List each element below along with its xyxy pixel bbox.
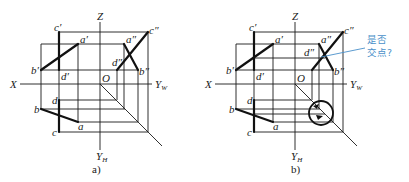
z-label: Z: [97, 10, 104, 22]
caption-b: b): [291, 163, 301, 176]
yw-label: YW: [155, 78, 168, 92]
label-c-front: c′: [54, 21, 62, 33]
x-label: X: [9, 78, 18, 90]
diagonal-45-line: [295, 84, 357, 146]
label-c-side: c″: [344, 24, 354, 36]
label-a-side: a″: [321, 33, 332, 45]
origin-label: O: [102, 72, 110, 84]
label-d-top: d: [52, 94, 58, 106]
label-d-front: d′: [256, 70, 265, 82]
label-a-front: a′: [275, 33, 284, 45]
z-label: Z: [292, 10, 299, 22]
callout-line-1: 是否: [367, 34, 387, 45]
label-b-top: b: [34, 103, 40, 115]
label-c-top: c: [247, 126, 252, 138]
panel-b: 是否 交点? Z X YW YH O c′ a′ b′ d′ c″ a″ b″ …: [204, 10, 392, 176]
label-b-top: b: [229, 103, 235, 115]
arrow-right-icon: [316, 115, 323, 120]
label-c-front: c′: [249, 21, 257, 33]
projection-figure: Z X YW YH O c′ a′ b′ d′ c″ a″ b″ d″ d b …: [0, 0, 409, 182]
label-b-front: b′: [226, 64, 235, 76]
label-c-side: c″: [149, 24, 159, 36]
label-b-front: b′: [31, 64, 40, 76]
label-a-top: a: [78, 120, 84, 132]
caption-a: a): [92, 163, 101, 176]
label-b-side: b″: [334, 65, 345, 77]
yh-label: YH: [291, 150, 303, 164]
highlight-circle: [309, 101, 333, 125]
label-a-front: a′: [80, 33, 89, 45]
label-b-side: b″: [139, 65, 150, 77]
label-d-top: d: [247, 94, 253, 106]
label-d-side: d″: [304, 46, 315, 58]
callout-line-2: 交点?: [367, 47, 392, 58]
origin-label: O: [297, 72, 305, 84]
label-a-side: a″: [126, 33, 137, 45]
yw-label: YW: [350, 78, 363, 92]
label-c-top: c: [52, 126, 57, 138]
label-a-top: a: [273, 120, 279, 132]
panel-a: Z X YW YH O c′ a′ b′ d′ c″ a″ b″ d″ d b …: [9, 10, 168, 176]
yh-label: YH: [96, 150, 108, 164]
diagonal-45-line: [100, 84, 162, 146]
label-d-side: d″: [112, 56, 123, 68]
x-label: X: [204, 78, 213, 90]
label-d-front: d′: [61, 70, 70, 82]
